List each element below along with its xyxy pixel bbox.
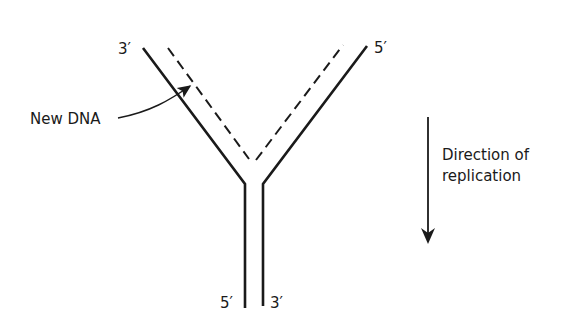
label-bottom-right-3prime: 3′: [270, 294, 284, 312]
replication-fork-diagram: 3′ 5′ 5′ 3′ New DNA Direction of replica…: [0, 0, 577, 328]
label-bottom-left-5prime: 5′: [220, 294, 234, 312]
label-top-right-5prime: 5′: [374, 39, 388, 57]
new-strand-right-dashed: [256, 45, 343, 160]
label-top-left-3prime: 3′: [118, 40, 132, 58]
label-new-dna: New DNA: [30, 110, 101, 128]
new-dna-pointer-arrow: [118, 86, 190, 118]
label-direction-line1: Direction of: [442, 146, 530, 164]
parental-strand-right: [263, 46, 367, 306]
label-direction-line2: replication: [442, 167, 521, 185]
parental-strand-left: [143, 48, 245, 308]
new-strand-left-dashed: [168, 48, 249, 159]
